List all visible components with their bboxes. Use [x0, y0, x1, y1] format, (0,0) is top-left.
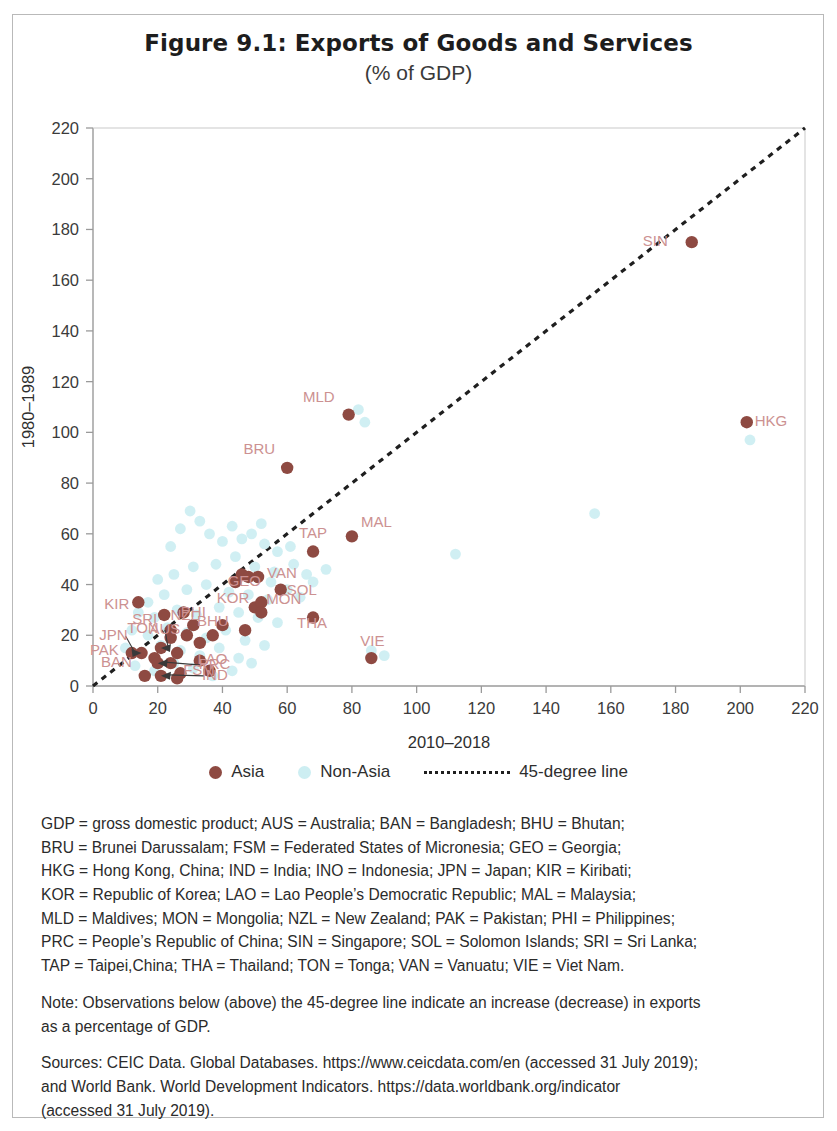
data-point-non-asia — [194, 516, 205, 527]
point-label-BHU: BHU — [197, 612, 229, 629]
x-axis-tick-label-140: 140 — [532, 699, 560, 717]
data-point-non-asia — [165, 541, 176, 552]
point-label-MAL: MAL — [361, 513, 392, 530]
x-axis-tick-label-0: 0 — [88, 699, 97, 717]
legend-item-non-asia: Non-Asia — [298, 762, 390, 782]
x-axis-tick-label-220: 220 — [791, 699, 819, 717]
y-axis-tick-label-220: 220 — [51, 119, 79, 137]
point-label-BRU: BRU — [244, 440, 276, 457]
data-point-non-asia — [259, 640, 270, 651]
data-point-non-asia — [321, 564, 332, 575]
data-point-asia-MLD — [342, 408, 354, 420]
scatter-plot: 0204060801001201401601802002200204060801… — [0, 0, 837, 800]
data-point-non-asia — [185, 506, 196, 517]
x-axis-tick-label-100: 100 — [403, 699, 431, 717]
data-point-non-asia — [359, 417, 370, 428]
data-point-asia-MAL — [346, 530, 358, 542]
abbreviation-line-5: PRC = People’s Republic of China; SIN = … — [41, 930, 797, 954]
data-point-non-asia — [233, 607, 244, 618]
data-point-non-asia — [589, 508, 600, 519]
data-point-non-asia — [240, 635, 251, 646]
data-point-non-asia — [204, 528, 215, 539]
point-label-KIR: KIR — [104, 595, 129, 612]
data-point-non-asia — [379, 650, 390, 661]
x-axis-tick-label-180: 180 — [662, 699, 690, 717]
legend-label-reference-line: 45-degree line — [519, 762, 628, 782]
abbreviation-line-2: HKG = Hong Kong, China; IND = India; INO… — [41, 859, 797, 883]
data-point-asia-BAN — [139, 670, 151, 682]
x-axis-title: 2010–2018 — [408, 733, 491, 751]
point-label-VAN: VAN — [267, 564, 297, 581]
data-point-non-asia — [152, 574, 163, 585]
abbreviation-line-1: BRU = Brunei Darussalam; FSM = Federated… — [41, 836, 797, 860]
abbreviation-line-4: MLD = Maldives; MON = Mongolia; NZL = Ne… — [41, 907, 797, 931]
legend-item-asia: Asia — [209, 762, 264, 782]
data-point-asia-BHU — [207, 629, 219, 641]
point-label-SIN: SIN — [643, 232, 668, 249]
y-axis-tick-label-180: 180 — [51, 220, 79, 238]
point-label-BAN: BAN — [101, 653, 132, 670]
chart-legend: Asia Non-Asia 45-degree line — [0, 762, 837, 782]
data-point-non-asia — [259, 539, 270, 550]
data-point-non-asia — [272, 617, 283, 628]
note-line-0: Note: Observations below (above) the 45-… — [41, 991, 797, 1015]
y-axis-tick-label-120: 120 — [51, 373, 79, 391]
data-point-asia-KIR — [132, 596, 144, 608]
y-axis-tick-label-200: 200 — [51, 170, 79, 188]
y-axis-tick-label-60: 60 — [61, 525, 79, 543]
abbreviations-block: GDP = gross domestic product; AUS = Aust… — [41, 812, 797, 978]
data-point-non-asia — [285, 541, 296, 552]
point-label-MON: MON — [266, 590, 301, 607]
data-point-non-asia — [201, 579, 212, 590]
point-label-HKG: HKG — [755, 412, 788, 429]
data-point-asia — [194, 637, 206, 649]
data-point-non-asia — [175, 523, 186, 534]
y-axis-tick-label-100: 100 — [51, 423, 79, 441]
data-point-non-asia — [188, 561, 199, 572]
sources-line-2: (accessed 31 July 2019). — [41, 1099, 797, 1123]
data-point-asia-VIE — [365, 652, 377, 664]
legend-label-non-asia: Non-Asia — [320, 762, 390, 782]
legend-item-reference-line: 45-degree line — [424, 762, 628, 782]
note-block: Note: Observations below (above) the 45-… — [41, 991, 797, 1038]
data-point-non-asia — [246, 658, 257, 669]
y-axis-title: 1980–1989 — [19, 366, 37, 449]
y-axis-tick-label-80: 80 — [61, 474, 79, 492]
data-point-asia-MON — [255, 606, 267, 618]
non-asia-dot-icon — [298, 766, 311, 779]
legend-label-asia: Asia — [231, 762, 264, 782]
y-axis-tick-label-0: 0 — [70, 677, 79, 695]
y-axis-tick-label-40: 40 — [61, 576, 79, 594]
data-point-asia-BRU — [281, 462, 293, 474]
data-point-non-asia — [236, 533, 247, 544]
y-axis-tick-label-20: 20 — [61, 626, 79, 644]
x-axis-tick-label-40: 40 — [213, 699, 231, 717]
data-point-non-asia — [181, 584, 192, 595]
data-point-asia-SIN — [686, 236, 698, 248]
point-label-GEO: GEO — [228, 572, 261, 589]
sources-line-1: and World Bank. World Development Indica… — [41, 1075, 797, 1099]
y-axis-tick-label-160: 160 — [51, 271, 79, 289]
data-point-non-asia — [745, 435, 756, 446]
data-point-non-asia — [217, 536, 228, 547]
data-point-non-asia — [450, 549, 461, 560]
data-point-non-asia — [159, 589, 170, 600]
figure-notes: GDP = gross domestic product; AUS = Aust… — [41, 812, 797, 1122]
point-label-KOR: KOR — [217, 589, 250, 606]
point-label-TAP: TAP — [299, 524, 327, 541]
data-point-non-asia — [272, 546, 283, 557]
x-axis-tick-label-20: 20 — [149, 699, 167, 717]
axis-titles: 2010–20181980–1989 — [19, 366, 490, 751]
x-axis-tick-label-200: 200 — [727, 699, 755, 717]
data-point-non-asia — [233, 653, 244, 664]
y-axis-tick-label-140: 140 — [51, 322, 79, 340]
asia-dot-icon — [209, 766, 222, 779]
data-point-non-asia — [246, 528, 257, 539]
data-point-non-asia — [230, 551, 241, 562]
dotted-line-icon — [424, 771, 510, 774]
figure-page: Figure 9.1: Exports of Goods and Service… — [0, 0, 837, 1131]
data-point-asia-FSM — [171, 672, 183, 684]
plot-svg: 0204060801001201401601802002200204060801… — [0, 0, 837, 800]
point-label-VIE: VIE — [360, 632, 384, 649]
data-point-asia-TAP — [307, 545, 319, 557]
